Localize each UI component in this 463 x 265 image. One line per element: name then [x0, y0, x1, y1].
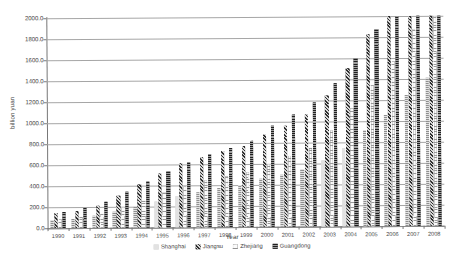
- bar: [121, 208, 124, 228]
- x-axis-tick-mark: [361, 226, 362, 229]
- bar-chart: billion yuan Year 0.0200.0400.0600.0800.…: [0, 0, 463, 265]
- y-axis-tick-label: 1000.0: [26, 120, 44, 126]
- y-axis-tick-label: 600.0: [29, 162, 44, 168]
- bar: [117, 195, 120, 227]
- bar-group: [67, 18, 89, 228]
- x-axis-tick-label: 1999: [240, 232, 252, 238]
- bar-group: [213, 17, 235, 227]
- bar: [217, 188, 220, 227]
- y-axis-tick-label: 200.0: [29, 204, 44, 210]
- bar: [54, 213, 57, 228]
- bar: [71, 219, 74, 228]
- x-axis-tick-label: 1990: [52, 233, 64, 239]
- x-axis-tick-label: 2002: [303, 231, 315, 237]
- bar: [159, 173, 163, 227]
- x-axis-tick-label: 1997: [198, 232, 210, 238]
- bar: [225, 176, 228, 227]
- x-axis-tick-label: 1991: [73, 233, 85, 239]
- bar: [437, 16, 441, 226]
- bar: [301, 170, 305, 227]
- x-axis-tick-mark: [382, 226, 383, 229]
- x-axis-tick-mark: [68, 228, 69, 231]
- x-axis-tick-mark: [110, 228, 111, 231]
- legend-item-guangdong[interactable]: Guangdong: [273, 243, 311, 249]
- bar: [187, 163, 191, 228]
- legend-item-zhejiang[interactable]: Zhejiang: [233, 243, 263, 249]
- y-axis-tick-label: 400.0: [29, 183, 44, 189]
- bar-group: [339, 16, 361, 226]
- bar: [325, 96, 329, 227]
- x-axis-tick-label: 1995: [156, 232, 168, 238]
- x-axis-tick-label: 1994: [135, 233, 147, 239]
- bar: [416, 16, 420, 226]
- x-axis-tick-mark: [131, 228, 132, 231]
- bar: [146, 181, 149, 227]
- legend-swatch-icon: [154, 244, 159, 249]
- bar: [200, 157, 204, 227]
- bar: [288, 156, 292, 227]
- x-axis-tick-label: 2005: [365, 231, 377, 237]
- x-axis-tick-label: 2003: [323, 231, 335, 237]
- legend-label: Zhejiang: [240, 243, 263, 249]
- bar: [163, 192, 166, 227]
- y-axis-tick-label: 800.0: [29, 141, 44, 147]
- bar: [142, 201, 145, 228]
- x-axis-tick-mark: [319, 226, 320, 229]
- y-axis-tick-label: 1200.0: [25, 99, 43, 105]
- bar: [284, 126, 288, 227]
- bar: [246, 172, 250, 227]
- x-axis-tick-mark: [340, 226, 341, 229]
- bar: [125, 192, 128, 228]
- bar: [396, 16, 400, 226]
- bar: [259, 179, 262, 227]
- bar: [354, 58, 358, 226]
- bar-group: [88, 18, 110, 228]
- x-axis-tick-mark: [152, 227, 153, 230]
- legend-item-jiangsu[interactable]: Jiangsu: [196, 243, 223, 249]
- bar-group: [318, 16, 340, 226]
- bar: [229, 148, 233, 227]
- bar: [267, 163, 271, 226]
- bar: [58, 219, 61, 229]
- y-axis-tick-label: 1600.0: [25, 57, 43, 63]
- bar: [167, 171, 171, 228]
- bar: [312, 103, 316, 227]
- legend-item-shanghai[interactable]: Shanghai: [154, 243, 186, 249]
- bar-group: [130, 17, 152, 227]
- x-axis-tick-label: 2007: [407, 231, 419, 237]
- x-axis-tick-label: 1996: [177, 232, 189, 238]
- bar: [92, 216, 95, 228]
- y-axis-tick-label: 1800.0: [25, 36, 43, 42]
- plot-area: 0.0200.0400.0600.0800.01000.01200.01400.…: [46, 16, 444, 228]
- legend-label: Guangdong: [280, 243, 311, 249]
- bar-group: [276, 17, 298, 227]
- x-axis-tick-mark: [424, 226, 425, 229]
- bar: [322, 161, 326, 227]
- x-axis-tick-label: 2000: [261, 232, 273, 238]
- bar-group: [234, 17, 256, 227]
- bar: [113, 212, 116, 228]
- x-axis-tick-label: 1992: [94, 233, 106, 239]
- x-axis-tick-label: 2004: [344, 231, 356, 237]
- x-axis-tick-label: 2008: [428, 231, 440, 237]
- bar: [79, 217, 82, 228]
- x-axis-tick-mark: [277, 227, 278, 230]
- x-axis-tick-label: 1993: [115, 233, 127, 239]
- x-axis-tick-mark: [215, 227, 216, 230]
- bar-group: [401, 16, 423, 226]
- bar: [83, 208, 86, 228]
- bar-group: [109, 18, 131, 228]
- bar-group: [255, 17, 277, 227]
- bar-group: [151, 17, 173, 227]
- legend-label: Shanghai: [161, 243, 186, 249]
- bar: [155, 202, 158, 228]
- x-axis-tick-mark: [445, 226, 446, 229]
- x-axis-tick-mark: [236, 227, 237, 230]
- bar: [292, 115, 296, 227]
- bar: [238, 185, 241, 227]
- x-axis-tick-label: 2006: [386, 231, 398, 237]
- bar: [250, 141, 254, 227]
- bar-group: [193, 17, 215, 227]
- x-axis-tick-mark: [298, 227, 299, 230]
- bar-group: [360, 16, 382, 226]
